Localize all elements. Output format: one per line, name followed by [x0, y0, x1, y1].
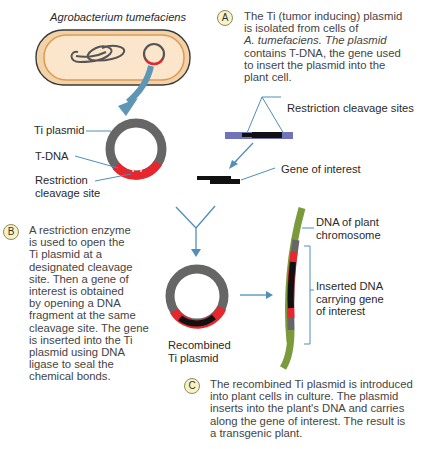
step-b-text: A restriction enzyme is used to open the…	[29, 224, 149, 383]
step-badge-a: A	[217, 10, 233, 26]
label-gene-of-interest: Gene of interest	[281, 163, 361, 176]
step-a-text: The Ti (tumor inducing) plasmid is isola…	[244, 10, 402, 83]
label-ti-plasmid: Ti plasmid	[34, 124, 85, 137]
label-plant-dna: DNA of plant chromosome	[316, 216, 381, 241]
combine-arrow	[176, 206, 215, 257]
label-inserted-dna: Inserted DNA carrying gene of interest	[316, 280, 384, 318]
dna-fragment	[225, 97, 293, 139]
label-t-dna: T-DNA	[35, 150, 69, 163]
gene-of-interest-fragment	[197, 168, 275, 184]
label-restriction-sites: Restriction cleavage sites	[287, 102, 414, 115]
bacterium-cell	[36, 30, 190, 85]
label-restriction-site: Restriction cleavage site	[35, 174, 100, 199]
recombined-plasmid	[170, 269, 224, 324]
step-c-text: The recombined Ti plasmid is introduced …	[210, 378, 413, 439]
plant-chromosome	[283, 208, 302, 368]
step-badge-b: B	[3, 224, 19, 240]
organism-title: Agrobacterium tumefaciens	[50, 11, 186, 24]
label-recombined-plasmid: Recombined Ti plasmid	[168, 339, 231, 364]
step-badge-c: C	[184, 378, 200, 394]
